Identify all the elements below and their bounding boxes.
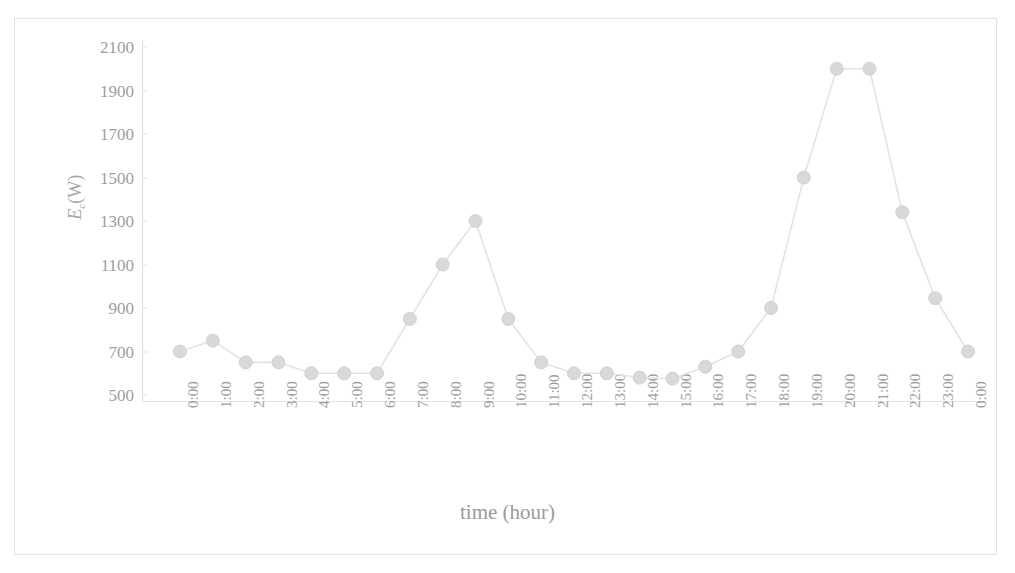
data-point-marker [371, 367, 384, 380]
y-tick-mark [142, 134, 147, 135]
series-line [180, 69, 968, 379]
data-point-marker [239, 356, 252, 369]
data-point-marker [206, 334, 219, 347]
data-point-marker [896, 206, 909, 219]
data-point-marker [830, 62, 843, 75]
data-point-marker [929, 292, 942, 305]
y-tick-mark [142, 177, 147, 178]
data-point-marker [305, 367, 318, 380]
data-point-marker [469, 215, 482, 228]
data-point-marker [797, 171, 810, 184]
data-point-marker [535, 356, 548, 369]
figure-container: 210019001700150013001100900700500 Ec(W) … [0, 0, 1015, 573]
data-point-marker [272, 356, 285, 369]
y-tick-mark [142, 221, 147, 222]
y-tick-mark [142, 264, 147, 265]
data-point-marker [962, 345, 975, 358]
data-point-marker [765, 302, 778, 315]
y-tick-mark [142, 351, 147, 352]
y-tick-mark [142, 308, 147, 309]
data-point-marker [732, 345, 745, 358]
data-point-marker [600, 367, 613, 380]
data-point-marker [633, 371, 646, 384]
y-tick-mark [142, 395, 147, 396]
data-point-marker [568, 367, 581, 380]
data-point-marker [174, 345, 187, 358]
data-point-marker [666, 372, 679, 385]
data-point-marker [436, 258, 449, 271]
data-point-marker [502, 312, 515, 325]
data-point-marker [699, 360, 712, 373]
data-point-marker [403, 312, 416, 325]
series-plot [0, 0, 1015, 573]
y-tick-mark [142, 90, 147, 91]
series-markers [174, 62, 975, 385]
data-point-marker [863, 62, 876, 75]
y-tick-mark [142, 47, 147, 48]
data-point-marker [338, 367, 351, 380]
